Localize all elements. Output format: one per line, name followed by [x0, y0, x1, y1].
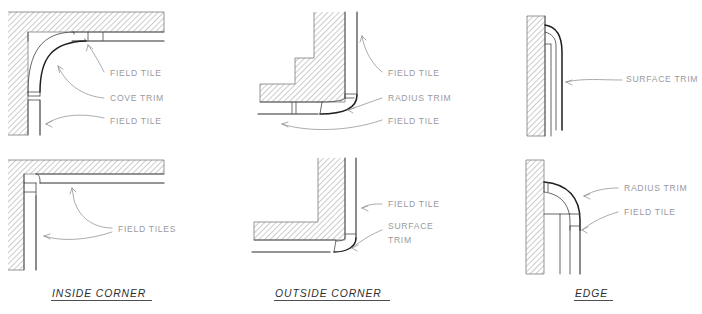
caption-inside-corner-text: INSIDE CORNER [52, 288, 146, 299]
detail-drawing-canvas: FIELD TILE COVE TRIM FIELD TILE [0, 0, 702, 314]
horizontal-field-tile [252, 240, 336, 252]
caption-edge-text: EDGE [575, 288, 608, 299]
label-surface-trim-line2: TRIM [388, 235, 412, 245]
label-field-tiles: FIELD TILES [118, 224, 176, 234]
caption-outside-corner-text: OUTSIDE CORNER [275, 288, 382, 299]
wall-substrate-hatch [8, 160, 164, 270]
label-radius-trim: RADIUS TRIM [624, 183, 687, 193]
wall-substrate-hatch [260, 12, 345, 102]
label-surface-trim-line1: SURFACE [388, 221, 434, 231]
edge-surface-trim-detail: SURFACE TRIM [527, 16, 698, 136]
label-radius-trim: RADIUS TRIM [388, 93, 451, 103]
wall-field-tile [28, 92, 40, 135]
horizontal-field-tile [258, 102, 322, 114]
radius-trim [544, 182, 580, 230]
vertical-field-tile [345, 12, 357, 98]
caption-edge: EDGE [574, 288, 613, 301]
wall-substrate-hatch [254, 158, 345, 240]
tile-trim-detail-sheet: FIELD TILE COVE TRIM FIELD TILE [0, 0, 702, 314]
leader-lines [566, 80, 622, 86]
edge-radius-trim-detail: RADIUS TRIM FIELD TILE [526, 160, 687, 274]
label-surface-trim: SURFACE TRIM [626, 74, 698, 84]
wall-substrate-hatch [526, 160, 544, 274]
leader-lines [46, 45, 104, 127]
label-cove-trim: COVE TRIM [110, 93, 164, 103]
caption-outside-corner: OUTSIDE CORNER [274, 288, 390, 301]
label-field-tile: FIELD TILE [624, 207, 676, 217]
label-field-tile-ceiling: FIELD TILE [110, 68, 162, 78]
wall-substrate-hatch [527, 16, 545, 136]
leader-lines [44, 188, 112, 239]
field-tile [544, 214, 580, 274]
label-field-tile-horizontal: FIELD TILE [388, 116, 440, 126]
label-field-tile: FIELD TILE [388, 199, 440, 209]
outside-corner-surface-trim-detail: FIELD TILE SURFACE TRIM [252, 158, 440, 252]
leader-lines [582, 188, 618, 233]
vertical-field-tile [345, 158, 356, 238]
inside-corner-cove-detail: FIELD TILE COVE TRIM FIELD TILE [8, 12, 164, 135]
surface-trim [545, 25, 562, 130]
label-field-tile-vertical: FIELD TILE [388, 68, 440, 78]
label-field-tile-wall: FIELD TILE [110, 116, 162, 126]
cove-trim [28, 32, 86, 92]
ceiling-field-tile [24, 174, 164, 183]
outside-corner-radius-detail: FIELD TILE RADIUS TRIM FIELD TILE [258, 12, 451, 130]
caption-inside-corner: INSIDE CORNER [51, 288, 152, 301]
ceiling-field-tile [28, 32, 164, 41]
wall-field-tile [24, 183, 36, 270]
inside-corner-field-tiles-detail: FIELD TILES [8, 160, 176, 270]
